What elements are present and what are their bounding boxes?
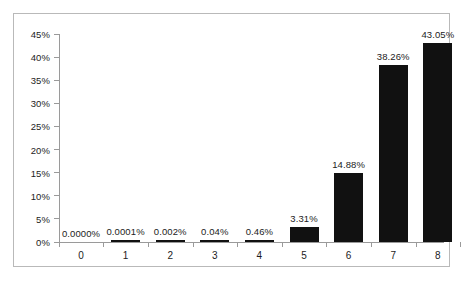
bar-value-label: 38.26% [377, 51, 410, 62]
y-axis-tick-mark [54, 195, 60, 196]
bar [245, 240, 274, 242]
bar [290, 227, 319, 242]
x-axis-tick-mark [326, 242, 327, 247]
x-axis-category-label: 0 [61, 250, 101, 261]
bar-chart: 0%5%10%15%20%25%30%35%40%45% 012345678 0… [0, 0, 463, 281]
bar-slot: 0.0001% [111, 34, 140, 242]
bar-value-label: 0.46% [246, 226, 273, 237]
y-axis-tick-mark [54, 218, 60, 219]
chart-frame: 0%5%10%15%20%25%30%35%40%45% 012345678 0… [13, 13, 450, 267]
x-axis-category-label: 4 [239, 250, 279, 261]
y-axis-tick-label: 20% [31, 144, 50, 155]
y-axis-tick: 40% [54, 57, 60, 58]
plot-area: 0%5%10%15%20%25%30%35%40%45% 012345678 0… [14, 14, 451, 268]
x-axis-category-label: 1 [106, 250, 146, 261]
x-axis-tick-mark [282, 242, 283, 247]
x-axis-category-label: 2 [150, 250, 190, 261]
x-axis-category-label: 6 [329, 250, 369, 261]
y-axis-line [59, 34, 60, 242]
x-axis-category-label: 5 [284, 250, 324, 261]
x-axis-tick-mark [371, 242, 372, 247]
y-axis-tick-label: 0% [36, 237, 50, 248]
x-axis-category-label: 7 [373, 250, 413, 261]
bar [200, 240, 229, 242]
y-axis-tick: 35% [54, 80, 60, 81]
y-axis-tick: 30% [54, 103, 60, 104]
y-axis-tick-mark [54, 57, 60, 58]
x-axis-tick-mark [59, 242, 60, 247]
bar-slot: 0.002% [156, 34, 185, 242]
y-axis-tick-label: 40% [31, 52, 50, 63]
y-axis-tick-mark [54, 80, 60, 81]
y-axis-tick-label: 15% [31, 167, 50, 178]
y-axis-tick-label: 35% [31, 75, 50, 86]
y-axis-tick-mark [54, 103, 60, 104]
bar-value-label: 0.002% [154, 226, 187, 237]
y-axis-tick: 20% [54, 149, 60, 150]
bar-value-label: 14.88% [332, 159, 365, 170]
y-axis-tick: 45% [54, 34, 60, 35]
y-axis-tick-label: 30% [31, 98, 50, 109]
y-axis-tick-label: 25% [31, 121, 50, 132]
y-axis-tick-mark [54, 34, 60, 35]
bar-slot: 43.05% [423, 34, 452, 242]
bar [156, 240, 185, 242]
y-axis-tick-label: 10% [31, 190, 50, 201]
bar-slot: 14.88% [334, 34, 363, 242]
bar-slot: 0.46% [245, 34, 274, 242]
y-axis-tick: 5% [54, 218, 60, 219]
y-axis-tick: 15% [54, 172, 60, 173]
bar [334, 173, 363, 242]
bar-value-label: 0.04% [201, 226, 228, 237]
bar-value-label: 0.0001% [106, 226, 144, 237]
x-axis-tick-mark [237, 242, 238, 247]
bar-value-label: 3.31% [290, 213, 317, 224]
bar [423, 43, 452, 242]
y-axis-tick: 10% [54, 195, 60, 196]
x-axis-tick-mark [416, 242, 417, 247]
y-axis-tick-mark [54, 126, 60, 127]
bar-slot: 0.04% [200, 34, 229, 242]
y-axis-tick-mark [54, 149, 60, 150]
x-axis-tick-mark [460, 242, 461, 247]
x-axis-line [59, 242, 444, 243]
bar-value-label: 0.0000% [62, 228, 100, 239]
bar [379, 65, 408, 242]
bar-slot: 38.26% [379, 34, 408, 242]
bar [111, 240, 140, 242]
x-axis-tick-mark [193, 242, 194, 247]
x-axis-category-label: 8 [418, 250, 458, 261]
x-axis-tick-mark [148, 242, 149, 247]
x-axis-category-label: 3 [195, 250, 235, 261]
y-axis-tick: 25% [54, 126, 60, 127]
y-axis-tick-label: 45% [31, 29, 50, 40]
x-axis-tick-mark [103, 242, 104, 247]
bar-slot: 0.0000% [67, 34, 96, 242]
y-axis-tick-mark [54, 172, 60, 173]
y-axis-tick-label: 5% [36, 213, 50, 224]
bar-value-label: 43.05% [421, 29, 454, 40]
bar-slot: 3.31% [290, 34, 319, 242]
